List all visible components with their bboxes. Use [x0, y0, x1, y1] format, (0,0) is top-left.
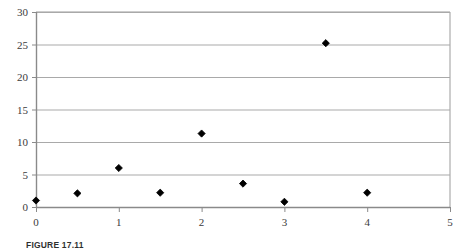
data-point-marker: [157, 189, 164, 196]
y-axis-tick-labels: 051015202530: [17, 6, 29, 213]
x-tick-label: 1: [116, 216, 122, 228]
data-point-marker: [239, 180, 246, 187]
figure-container: 051015202530 012345 FIGURE 17.11: [0, 0, 462, 249]
x-tick-label: 4: [364, 216, 370, 228]
x-tick-label: 3: [282, 216, 288, 228]
y-tick-label: 5: [23, 169, 29, 181]
y-tick-label: 0: [23, 201, 29, 213]
data-point-marker: [115, 164, 122, 171]
data-point-marker: [74, 190, 81, 197]
x-tick-label: 5: [447, 216, 453, 228]
x-tick-label: 2: [199, 216, 205, 228]
y-tick-label: 15: [17, 104, 29, 116]
data-point-marker: [322, 40, 329, 47]
x-axis-tick-labels: 012345: [33, 216, 453, 228]
x-axis: [36, 207, 451, 212]
gridlines: [36, 13, 450, 176]
y-tick-label: 20: [17, 71, 29, 83]
data-point-marker: [32, 197, 39, 204]
y-tick-label: 10: [17, 136, 29, 148]
data-points: [32, 40, 370, 206]
y-tick-label: 30: [17, 6, 29, 18]
figure-caption-label: FIGURE 17.11: [26, 240, 84, 249]
x-tick-label: 0: [33, 216, 39, 228]
data-point-marker: [281, 198, 288, 205]
scatter-plot: 051015202530 012345: [0, 0, 462, 249]
y-axis: [32, 12, 37, 208]
figure-caption: FIGURE 17.11: [26, 240, 456, 249]
data-point-marker: [364, 189, 371, 196]
y-tick-label: 25: [17, 39, 29, 51]
data-point-marker: [198, 130, 205, 137]
